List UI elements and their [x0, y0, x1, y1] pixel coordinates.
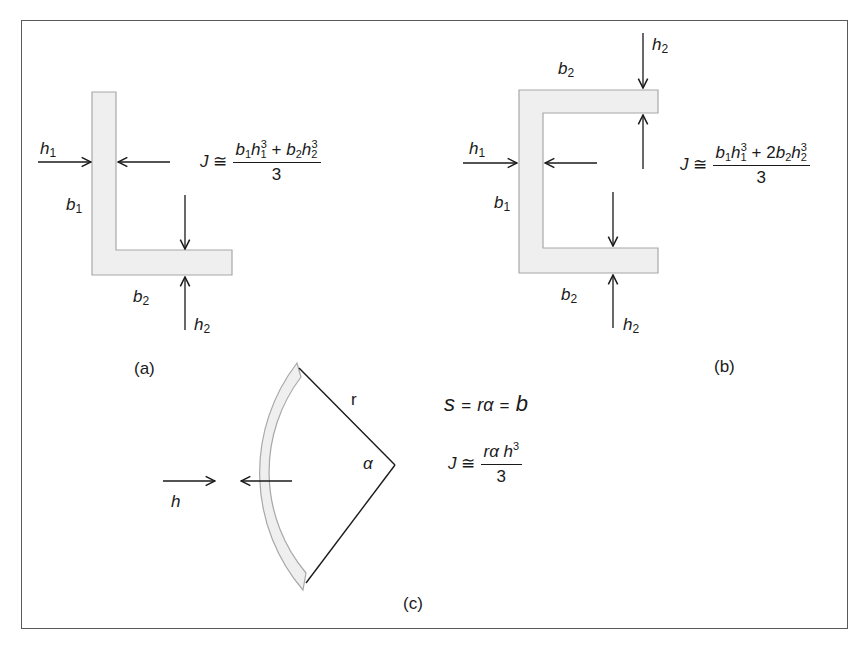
caption-a: (a)	[134, 360, 155, 377]
formula-c: J ≅ rα h3 3	[448, 440, 522, 487]
radius-line-bottom	[306, 465, 395, 583]
label-h2-bottom: h2	[623, 316, 639, 335]
formula-c-numerator: rα h3	[481, 440, 523, 465]
label-b1: b1	[66, 196, 82, 215]
label-h2-top: h2	[652, 36, 668, 55]
label-h: h	[171, 493, 180, 510]
label-h1: h1	[40, 140, 56, 159]
arc-length-equation: s = rα = b	[444, 391, 528, 417]
radius-line-top	[299, 368, 395, 465]
formula-b-numerator: b1h13 + 2b2h23	[713, 141, 810, 166]
label-b2-top: b2	[558, 60, 574, 79]
label-b2-bottom: b2	[561, 286, 577, 305]
caption-b: (b)	[714, 358, 735, 375]
formula-b: J ≅ b1h13 + 2b2h23 3	[680, 141, 810, 188]
arc-section-shape	[260, 363, 306, 590]
diagram-canvas	[0, 0, 868, 654]
label-alpha: α	[363, 455, 373, 472]
label-r: r	[351, 391, 357, 408]
label-h2: h2	[194, 316, 210, 335]
caption-c: (c)	[403, 595, 423, 612]
channel-section-shape	[519, 90, 658, 273]
label-b-b1: b1	[494, 194, 510, 213]
label-b-h1: h1	[469, 140, 485, 159]
formula-a: J ≅ b1h13 + b2h23 3	[200, 138, 321, 185]
formula-a-numerator: b1h13 + b2h23	[233, 138, 321, 163]
label-b2: b2	[133, 288, 149, 307]
